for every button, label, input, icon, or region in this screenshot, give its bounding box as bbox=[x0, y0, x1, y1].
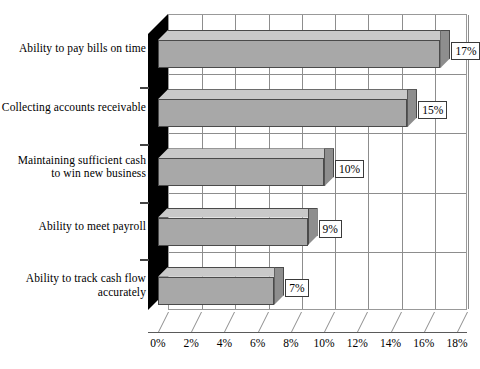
x-axis-tick-label: 4% bbox=[217, 336, 232, 350]
bar bbox=[158, 89, 417, 127]
bar-value-label: 7% bbox=[285, 279, 308, 297]
y-axis-tick bbox=[140, 144, 149, 146]
bar-front-face bbox=[158, 40, 440, 68]
bar-top-face bbox=[158, 208, 318, 218]
x-axis-tick bbox=[357, 312, 368, 332]
bar-front-face bbox=[158, 277, 274, 305]
y-axis-tick bbox=[140, 259, 149, 261]
bar bbox=[158, 208, 318, 246]
x-axis-tick-label: 12% bbox=[347, 336, 368, 350]
category-label: Maintaining sufficient cash to win new b… bbox=[18, 154, 146, 181]
x-axis-tick-label: 16% bbox=[413, 336, 434, 350]
gridline-horizontal bbox=[169, 133, 466, 134]
category-label: Ability to track cash flow accurately bbox=[26, 272, 146, 299]
category-label: Ability to pay bills on time bbox=[19, 42, 146, 56]
bar bbox=[158, 148, 334, 186]
category-label: Ability to meet payroll bbox=[39, 220, 146, 234]
x-axis-tick-label: 10% bbox=[314, 336, 335, 350]
bar-top-face bbox=[158, 30, 450, 40]
gridline-horizontal bbox=[169, 193, 466, 194]
y-axis-tick bbox=[140, 87, 149, 89]
x-axis-tick bbox=[191, 312, 202, 332]
x-axis-line bbox=[148, 332, 467, 333]
x-axis-tick bbox=[224, 312, 235, 332]
y-axis-tick bbox=[140, 202, 149, 204]
bar bbox=[158, 267, 284, 305]
x-axis-tick bbox=[424, 312, 435, 332]
bar-front-face bbox=[158, 99, 407, 127]
x-axis-tick-label: 8% bbox=[283, 336, 298, 350]
bar-top-face bbox=[158, 89, 417, 99]
bar bbox=[158, 30, 450, 68]
bar-value-label: 9% bbox=[319, 220, 342, 238]
x-axis-tick bbox=[457, 312, 468, 332]
bar-value-label: 10% bbox=[335, 160, 364, 178]
gridline-horizontal bbox=[169, 252, 466, 253]
gridline-horizontal bbox=[169, 74, 466, 75]
bar-side-face bbox=[308, 208, 318, 246]
bar-side-face bbox=[324, 148, 334, 186]
x-axis-tick-label: 0% bbox=[150, 336, 165, 350]
category-label: Collecting accounts receivable bbox=[2, 101, 146, 115]
bar-side-face bbox=[440, 30, 450, 68]
bar-value-label: 15% bbox=[418, 101, 447, 119]
x-axis-tick bbox=[158, 312, 169, 332]
bar-top-face bbox=[158, 148, 334, 158]
bar-value-label: 17% bbox=[451, 42, 480, 60]
x-axis-tick-label: 18% bbox=[446, 336, 467, 350]
bar-top-face bbox=[158, 267, 284, 277]
x-axis-tick bbox=[324, 312, 335, 332]
x-axis-tick bbox=[391, 312, 402, 332]
x-axis-tick-label: 6% bbox=[250, 336, 265, 350]
x-axis-tick-label: 2% bbox=[184, 336, 199, 350]
x-axis-tick bbox=[258, 312, 269, 332]
bar-front-face bbox=[158, 218, 308, 246]
bar-front-face bbox=[158, 158, 324, 186]
bar-side-face bbox=[407, 89, 417, 127]
x-axis-tick-label: 14% bbox=[380, 336, 401, 350]
x-axis-tick bbox=[291, 312, 302, 332]
bar-side-face bbox=[274, 267, 284, 305]
